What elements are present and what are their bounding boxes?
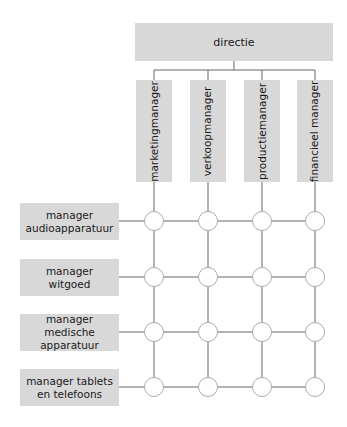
column-box-marketing: marketingmanager xyxy=(136,80,172,182)
row-box-medisch: manager medische apparatuur xyxy=(20,314,119,351)
row-label: manager audioapparatuur xyxy=(24,209,115,235)
column-label: financieel manager xyxy=(309,80,322,181)
column-label: productiemanager xyxy=(256,83,269,180)
column-box-productie: productiemanager xyxy=(244,80,280,182)
directie-label: directie xyxy=(213,36,254,49)
column-box-verkoop: verkoopmanager xyxy=(190,80,226,182)
row-box-tablets: manager tablets en telefoons xyxy=(20,369,119,406)
row-label: manager witgoed xyxy=(24,265,115,291)
row-box-audio: manager audioapparatuur xyxy=(20,203,119,240)
column-label: marketingmanager xyxy=(148,81,161,182)
column-box-financieel: financieel manager xyxy=(297,80,333,182)
matrix-nodes xyxy=(145,212,325,397)
row-label: manager medische apparatuur xyxy=(24,313,115,352)
column-label: verkoopmanager xyxy=(202,86,215,175)
directie-box: directie xyxy=(135,23,333,61)
row-box-witgoed: manager witgoed xyxy=(20,259,119,296)
row-label: manager tablets en telefoons xyxy=(24,375,115,401)
